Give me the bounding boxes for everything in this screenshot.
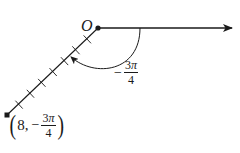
open-paren: ( xyxy=(9,111,16,139)
origin-point xyxy=(95,25,100,30)
point-coordinate-label: ( 8 , − 3π 4 ) xyxy=(8,111,65,139)
close-paren: ) xyxy=(57,111,64,139)
angle-numerator: 3π xyxy=(124,59,138,73)
angle-label: − 3π 4 xyxy=(114,59,138,86)
angle-fraction: 3π 4 xyxy=(124,59,138,86)
angle-sign: − xyxy=(114,65,122,81)
point-theta-fraction: 3π 4 xyxy=(41,112,55,139)
point-theta-numerator: 3π xyxy=(41,112,55,126)
point-theta-denominator: 4 xyxy=(45,126,51,139)
angle-denominator: 4 xyxy=(128,73,134,86)
coordinate-separator: , xyxy=(25,117,29,134)
origin-label: O xyxy=(81,17,93,35)
point-r-value: 8 xyxy=(17,117,25,134)
tick-marks xyxy=(15,35,91,108)
point-theta-sign: − xyxy=(32,117,40,133)
